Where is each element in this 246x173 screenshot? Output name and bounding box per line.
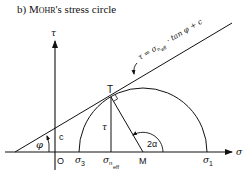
svg-text:τ = σ: τ = σ (136, 43, 159, 62)
tau-value-label: τ (102, 122, 108, 132)
sigma-axis-label: σ (236, 147, 243, 157)
svg-text:· tan φ + c: · tan φ + c (165, 16, 205, 45)
tau-axis-label: τ (51, 28, 57, 38)
center-label: M (139, 156, 147, 166)
radius-line (111, 97, 143, 152)
envelope-equation: τ = σ n eff · tan φ + c (136, 16, 206, 64)
sigma-n-eff-label: σ n eff (103, 155, 119, 170)
svg-text:eff: eff (160, 44, 168, 52)
svg-text:eff: eff (113, 164, 119, 170)
svg-text:3: 3 (81, 160, 85, 167)
tangent-point-label: T (107, 84, 113, 95)
cohesion-label: c (59, 132, 64, 142)
sigma3-label: σ 3 (75, 155, 85, 167)
failure-envelope (15, 23, 232, 152)
svg-text:1: 1 (209, 160, 213, 167)
envelope-pointer (134, 63, 137, 74)
phi-angle-arc (47, 136, 49, 152)
phi-label: φ (36, 139, 43, 150)
origin-label: O (57, 156, 64, 166)
mohr-circle-diagram: τ σ O φ c τ 2α T M σ 3 σ 1 σ n eff τ = σ… (0, 0, 246, 173)
mohr-semicircle (79, 88, 207, 152)
right-angle-marker (114, 95, 118, 102)
svg-text:n: n (109, 160, 112, 166)
sigma1-label: σ 1 (203, 155, 213, 167)
double-angle-label: 2α (147, 139, 157, 149)
